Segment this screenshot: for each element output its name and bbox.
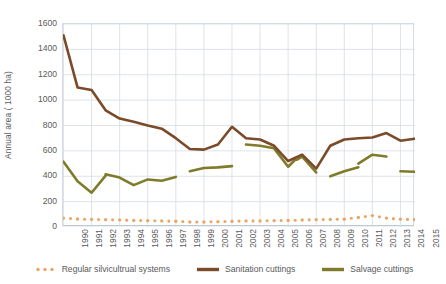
y-axis-tick-labels: 16001400120010008006004002000 xyxy=(18,0,60,240)
legend-item[interactable]: Sanitation cuttings xyxy=(196,264,295,274)
series-marker-regular xyxy=(118,218,121,221)
x-tick-label: 2007 xyxy=(318,229,328,263)
series-marker-regular xyxy=(230,220,233,223)
series-marker-regular xyxy=(146,219,149,222)
x-tick-label: 1998 xyxy=(192,229,202,263)
x-tick-label: 2009 xyxy=(346,229,356,263)
y-tick-label: 600 xyxy=(43,145,57,155)
series-marker-regular xyxy=(266,219,269,222)
series-salvage-cuttings xyxy=(64,145,415,193)
series-line-salvage xyxy=(64,162,106,193)
plot-area xyxy=(62,23,414,226)
x-tick-label: 2006 xyxy=(304,229,314,263)
series-marker-regular xyxy=(371,214,374,217)
series-marker-regular xyxy=(251,219,254,222)
series-marker-regular xyxy=(357,216,360,219)
plot-svg xyxy=(63,24,415,227)
x-tick-label: 2005 xyxy=(290,229,300,263)
series-marker-regular xyxy=(364,215,367,218)
series-marker-regular xyxy=(202,220,205,223)
series-line-sanitation-cuttings xyxy=(64,35,415,168)
y-tick-label: 1000 xyxy=(38,94,57,104)
series-marker-regular xyxy=(69,217,72,220)
legend-label: Sanitation cuttings xyxy=(225,264,295,274)
x-tick-label: 2004 xyxy=(276,229,286,263)
series-marker-regular xyxy=(272,219,275,222)
y-tick-label: 1600 xyxy=(38,18,57,28)
x-tick-label: 2014 xyxy=(416,229,426,263)
x-tick-label: 1994 xyxy=(136,229,146,263)
series-marker-regular xyxy=(223,220,226,223)
x-tick-label: 1995 xyxy=(150,229,160,263)
y-tick-label: 1200 xyxy=(38,69,57,79)
y-tick-label: 800 xyxy=(43,120,57,130)
legend-swatch-icon xyxy=(321,265,345,274)
x-tick-label: 2001 xyxy=(234,229,244,263)
series-marker-regular xyxy=(90,218,93,221)
series-marker-regular xyxy=(378,215,381,218)
series-marker-regular xyxy=(350,217,353,220)
x-tick-label: 2012 xyxy=(388,229,398,263)
x-tick-label: 1997 xyxy=(178,229,188,263)
series-marker-regular xyxy=(181,220,184,223)
series-marker-regular xyxy=(294,219,297,222)
series-marker-regular xyxy=(174,220,177,223)
series-marker-regular xyxy=(195,220,198,223)
series-marker-regular xyxy=(63,216,65,219)
y-axis-title: Annual area ( 1000 ha) xyxy=(0,0,16,230)
series-marker-regular xyxy=(308,218,311,221)
x-tick-label: 1992 xyxy=(108,229,118,263)
series-marker-regular xyxy=(413,218,415,221)
x-tick-label: 1993 xyxy=(122,229,132,263)
x-tick-label: 2011 xyxy=(374,229,384,263)
series-marker-regular xyxy=(286,219,289,222)
series-marker-regular xyxy=(139,219,142,222)
legend-swatch-icon xyxy=(196,265,220,274)
y-tick-label: 1400 xyxy=(38,43,57,53)
series-marker-regular xyxy=(104,218,107,221)
series-marker-regular xyxy=(76,217,79,220)
y-tick-label: 0 xyxy=(52,221,57,231)
series-regular-silvicultural-systems xyxy=(63,214,415,224)
line-chart: Annual area ( 1000 ha) 16001400120010008… xyxy=(0,0,446,284)
x-tick-label: 2000 xyxy=(220,229,230,263)
series-marker-regular xyxy=(216,220,219,223)
legend-label: Regular silvicultrual systems xyxy=(62,264,170,274)
series-marker-regular xyxy=(111,218,114,221)
y-tick-label: 200 xyxy=(43,196,57,206)
series-marker-regular xyxy=(343,217,346,220)
series-marker-regular xyxy=(188,220,191,223)
series-marker-regular xyxy=(406,218,409,221)
series-marker-regular xyxy=(300,218,303,221)
x-tick-label: 2010 xyxy=(360,229,370,263)
series-marker-regular xyxy=(329,218,332,221)
x-tick-label: 2008 xyxy=(332,229,342,263)
series-marker-regular xyxy=(160,219,163,222)
x-tick-label: 1996 xyxy=(164,229,174,263)
series-marker-regular xyxy=(392,217,395,220)
y-axis-title-label: Annual area ( 1000 ha) xyxy=(3,71,13,159)
legend-item[interactable]: Salvage cuttings xyxy=(321,264,413,274)
x-tick-label: 2002 xyxy=(248,229,258,263)
series-marker-regular xyxy=(385,216,388,219)
series-marker-regular xyxy=(209,220,212,223)
legend-label: Salvage cuttings xyxy=(350,264,413,274)
x-tick-label: 2015 xyxy=(431,229,441,263)
x-tick-label: 1991 xyxy=(94,229,104,263)
series-marker-regular xyxy=(280,219,283,222)
series-marker-regular xyxy=(237,220,240,223)
chart-legend: Regular silvicultrual systemsSanitation … xyxy=(0,259,446,279)
series-marker-regular xyxy=(244,219,247,222)
x-tick-label: 2013 xyxy=(402,229,412,263)
series-marker-regular xyxy=(132,219,135,222)
series-marker-regular xyxy=(258,219,261,222)
series-marker-regular xyxy=(83,218,86,221)
series-marker-regular xyxy=(97,218,100,221)
y-tick-label: 400 xyxy=(43,170,57,180)
legend-item[interactable]: Regular silvicultrual systems xyxy=(33,264,170,274)
series-marker-regular xyxy=(322,218,325,221)
x-tick-label: 2003 xyxy=(262,229,272,263)
x-tick-label: 1990 xyxy=(80,229,90,263)
series-marker-regular xyxy=(315,218,318,221)
series-marker-regular xyxy=(153,219,156,222)
